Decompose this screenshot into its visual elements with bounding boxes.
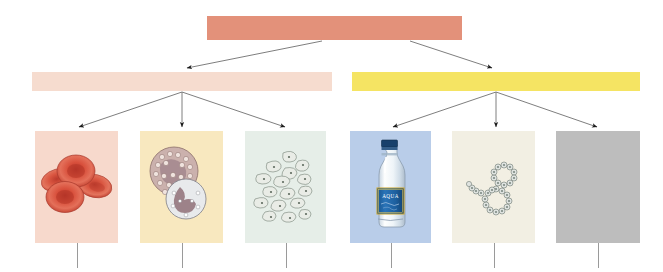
panel-stem-6 [598,243,599,268]
diagram-canvas: AQUA [0,0,663,272]
panel-blank-grey[interactable] [556,131,640,243]
arrow-left-branch-to-panel-3 [182,92,285,127]
panel-protein-chain[interactable] [452,131,535,243]
arrow-right-branch-to-panel-6 [496,92,597,127]
branch-bar-left[interactable] [32,72,332,91]
protein-chain-icon [452,131,535,243]
panel-stem-1 [77,243,78,268]
panel-water-bottle[interactable]: AQUA [350,131,431,243]
panel-stem-2 [182,243,183,268]
arrow-root-to-left-branch [187,41,322,68]
panel-stem-4 [391,243,392,268]
white-blood-cells-icon [140,131,223,243]
root-bar[interactable] [207,16,462,40]
platelets-icon [245,131,326,243]
red-blood-cells-icon [35,131,118,243]
arrow-left-branch-to-panel-1 [79,92,182,127]
panel-red-blood-cells[interactable] [35,131,118,243]
panel-white-blood-cells[interactable] [140,131,223,243]
arrow-right-branch-to-panel-4 [393,92,496,127]
bottle-brand-label: AQUA [382,193,399,199]
panel-stem-5 [494,243,495,268]
panel-stem-3 [286,243,287,268]
branch-bar-right[interactable] [352,72,640,91]
arrow-root-to-right-branch [410,41,492,68]
panel-platelets[interactable] [245,131,326,243]
blank-grey-icon [556,131,640,243]
water-bottle-icon: AQUA [350,131,431,243]
